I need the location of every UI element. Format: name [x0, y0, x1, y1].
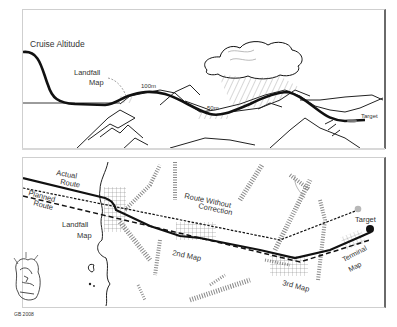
- island: [88, 264, 94, 272]
- landfall-map-plan-label-line2: Map: [77, 231, 92, 240]
- terminal-map-label-line2: Map: [347, 260, 363, 274]
- altitude-50m-label: 50m: [207, 105, 219, 111]
- cruise-altitude-label: Cruise Altitude: [30, 39, 85, 49]
- islet: [93, 285, 95, 287]
- cloud: [205, 42, 302, 79]
- altitude-100m-label: 100m: [141, 83, 156, 89]
- flight-profile-path: [23, 52, 365, 121]
- target-label-plan: Target: [355, 215, 377, 224]
- coastline: [98, 162, 110, 306]
- uncorrected-target-marker: [355, 206, 362, 213]
- target-label-profile: Target: [361, 113, 378, 119]
- mountain-ridges: [120, 162, 325, 300]
- third-map-label: 3rd Map: [282, 278, 311, 293]
- landfall-map-label-line2: Map: [89, 78, 104, 87]
- profile-view-drawing: Cruise Altitude Landfall Map 100m 50m Ta…: [0, 0, 397, 327]
- actual-route: [23, 178, 371, 258]
- landfall-map-label-line1: Landfall: [74, 68, 101, 77]
- second-map-label: 2nd Map: [172, 248, 202, 263]
- artist-signature-cartoon: [14, 252, 40, 300]
- islet: [89, 283, 91, 285]
- landfall-map-pointer: [108, 78, 126, 96]
- signature-text: GB 2008: [14, 311, 34, 317]
- target-marker: [366, 225, 374, 233]
- target-marker-profile: [347, 119, 357, 123]
- landfall-map-plan-label-line1: Landfall: [62, 220, 89, 229]
